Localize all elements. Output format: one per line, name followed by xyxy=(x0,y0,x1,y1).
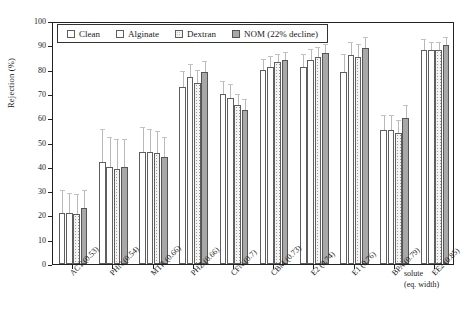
x-tick-label: E2 (0.74) xyxy=(309,250,337,278)
legend-item: Alginate xyxy=(116,29,159,39)
y-tick-mark xyxy=(48,22,52,23)
legend-item: Clean xyxy=(67,29,100,39)
legend-item: Dextran xyxy=(175,29,216,39)
legend-item: NOM (22% decline) xyxy=(232,29,318,39)
y-tick-mark xyxy=(48,241,52,242)
x-tick-label: PHN (0.54) xyxy=(108,245,141,278)
y-tick-mark xyxy=(48,46,52,47)
x-tick-label: CFN (0.7) xyxy=(229,248,259,278)
x-axis-title-line2: (eq. width) xyxy=(404,279,439,290)
x-tick-label: CBM (0.73) xyxy=(269,243,303,277)
x-tick-label: ACT (0.53) xyxy=(68,245,101,278)
y-tick-mark xyxy=(48,95,52,96)
y-tick-mark xyxy=(48,168,52,169)
legend-swatch-dextran xyxy=(175,30,183,38)
y-tick-mark xyxy=(48,144,52,145)
chart-legend: CleanAlginateDextranNOM (22% decline) xyxy=(57,24,328,43)
legend-swatch-nom xyxy=(232,30,240,38)
x-axis-title-line1: solute xyxy=(404,268,439,279)
x-axis-tick-labels: ACT (0.53)PHN (0.54)MTR (0.66)PHZ (0.66)… xyxy=(0,0,466,313)
y-tick-mark xyxy=(48,192,52,193)
legend-label: Dextran xyxy=(187,29,216,39)
x-tick-label: PHZ (0.66) xyxy=(189,245,221,277)
legend-swatch-clean xyxy=(67,30,75,38)
y-tick-mark xyxy=(48,71,52,72)
x-tick-label: E1 (0.76) xyxy=(350,250,378,278)
x-axis-title: solute (eq. width) xyxy=(404,268,439,290)
y-tick-mark xyxy=(48,119,52,120)
rejection-bar-chart: Rejection (%) 0102030405060708090100 ACT… xyxy=(0,0,466,313)
legend-swatch-alginate xyxy=(116,30,124,38)
x-tick-label: MTR (0.66) xyxy=(149,244,183,278)
legend-label: Clean xyxy=(79,29,100,39)
y-tick-mark xyxy=(48,216,52,217)
y-tick-mark xyxy=(48,265,52,266)
legend-label: NOM (22% decline) xyxy=(244,29,318,39)
legend-label: Alginate xyxy=(128,29,159,39)
